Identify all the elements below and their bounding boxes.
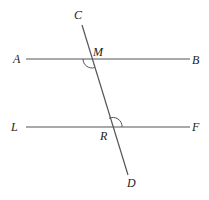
label-b: B: [192, 53, 200, 67]
label-d: D: [126, 176, 136, 190]
label-a: A: [12, 52, 21, 66]
transversal-cd: [82, 25, 128, 175]
label-c: C: [74, 8, 83, 22]
label-f: F: [191, 120, 200, 134]
label-r: R: [99, 129, 108, 143]
label-l: L: [10, 120, 18, 134]
geometry-figure: A B C M L F R D: [0, 0, 209, 200]
label-m: M: [92, 45, 104, 59]
diagram-canvas: A B C M L F R D: [0, 0, 209, 200]
